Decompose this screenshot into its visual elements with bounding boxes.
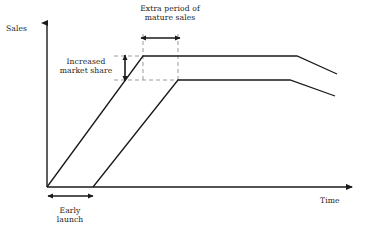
x-axis-label: Time (320, 196, 360, 205)
product-life-cycle-diagram (0, 0, 368, 235)
annotation-increased-market-share: Increased market share (50, 57, 122, 75)
annotation-early-launch: Early launch (44, 206, 96, 224)
annotation-extra-period-of-mature-sales: Extra period of mature sales (120, 4, 220, 22)
curve-early-launch (47, 56, 337, 187)
y-axis-label: Sales (6, 24, 46, 33)
curve-later-launch (93, 80, 335, 187)
